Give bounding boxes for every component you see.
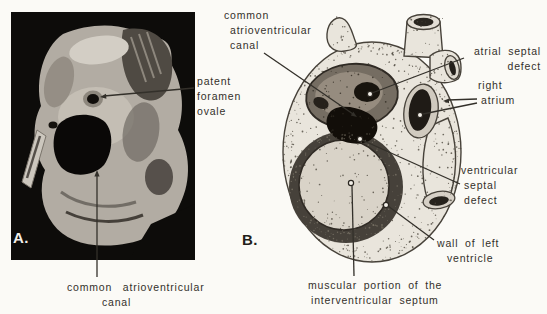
label-right-atrium: right atrium xyxy=(478,78,515,108)
label-line: canal xyxy=(67,295,204,310)
panel-b-letter: B. xyxy=(242,231,258,248)
great-vessel-lumen xyxy=(414,18,434,26)
panel-a-photo xyxy=(11,12,195,260)
leader-right-atrium-1 xyxy=(448,99,477,100)
label-line: patent xyxy=(197,74,241,89)
label-line: septal xyxy=(461,178,518,193)
label-line: foramen xyxy=(197,89,241,104)
label-line: ventricular xyxy=(461,163,518,178)
left-ventricle-cavity xyxy=(299,140,389,230)
label-wall-of-left-ventricle: wall of left ventricle xyxy=(437,236,499,266)
label-line: muscular portion of the xyxy=(308,278,442,293)
marker-dot-asd xyxy=(367,91,372,96)
label-line: wall of left xyxy=(437,236,499,251)
label-line: interventricular septum xyxy=(308,293,442,308)
label-line: atrial septal xyxy=(460,44,541,59)
label-atrial-septal-defect: atrial septal defect xyxy=(460,44,541,74)
label-line: canal xyxy=(224,38,312,53)
marker-dot-wall-lv xyxy=(383,202,388,207)
marker-dot-muscular-septum xyxy=(348,180,353,185)
label-line: defect xyxy=(460,59,541,74)
label-patent-foramen-ovale: patent foramen ovale xyxy=(197,74,241,119)
label-common-av-canal-photo: common atrioventricular canal xyxy=(67,280,204,310)
label-line: common xyxy=(224,8,312,23)
marker-dot-right-atrium xyxy=(417,112,422,117)
small-dark-recess xyxy=(49,122,58,129)
label-line: right xyxy=(478,78,515,93)
label-ventricular-septal-defect: ventricular septal defect xyxy=(461,163,518,208)
specimen-shadow-lower-right xyxy=(145,159,173,195)
marker-dot-vsd xyxy=(357,136,362,141)
label-line: common atrioventricular xyxy=(67,280,204,295)
label-line: atrium xyxy=(478,93,515,108)
label-line: ventricle xyxy=(437,251,499,266)
figure-common-atrioventricular-canal: common atrioventricular canal patent for… xyxy=(0,0,547,314)
panel-a-letter: A. xyxy=(13,229,29,246)
label-line: ovale xyxy=(197,104,241,119)
atrial-appendage-horn xyxy=(327,18,356,52)
av-canal-opening-photo xyxy=(54,115,112,175)
label-common-av-canal-top: common atrioventricular canal xyxy=(224,8,312,53)
label-line: defect xyxy=(461,193,518,208)
label-line: atrioventricular xyxy=(224,23,312,38)
label-muscular-portion: muscular portion of the interventricular… xyxy=(308,278,442,308)
foramen-ovale-hole xyxy=(87,94,99,104)
